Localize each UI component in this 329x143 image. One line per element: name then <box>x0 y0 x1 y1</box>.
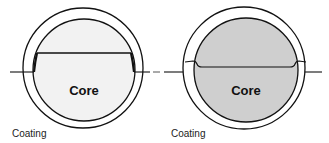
right-core-label: Core <box>231 83 261 98</box>
coated-core-diagram: Core Coating Core Coating <box>0 0 329 143</box>
right-coating-label: Coating <box>171 128 205 139</box>
right-panel: Core Coating <box>164 7 322 139</box>
left-coating-label: Coating <box>12 128 46 139</box>
left-core-circle <box>33 19 135 121</box>
left-core-label: Core <box>69 83 99 98</box>
left-panel: Core Coating <box>10 8 160 139</box>
right-core-circle <box>194 18 298 122</box>
